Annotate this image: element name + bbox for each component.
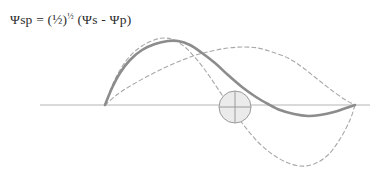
nucleus-circle — [219, 91, 251, 123]
wavefunction-plot — [0, 0, 373, 172]
orbital-hybridization-figure: Ψsp = (½)½ (Ψs - Ψp) — [0, 0, 373, 172]
